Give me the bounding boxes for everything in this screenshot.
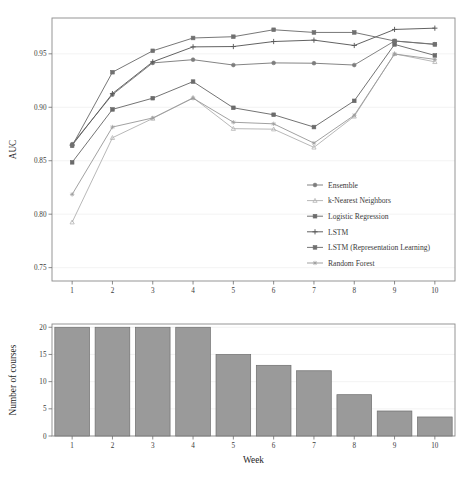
y-tick-label-1: 5	[43, 405, 47, 413]
y-tick-label-3: 15	[39, 351, 47, 359]
legend-item-k-nearest-neighbors[interactable]: k-Nearest Neighbors	[307, 196, 391, 205]
y-tick-label-2: 0.85	[34, 157, 47, 165]
series-line-3	[72, 28, 435, 145]
legend-label-5: Random Forest	[328, 259, 376, 268]
x-tick-label-0: 1	[70, 287, 74, 295]
marker-square-2-7	[352, 99, 356, 103]
bar-week-6[interactable]	[256, 365, 291, 436]
series-lstm-representation-learning	[70, 28, 436, 148]
marker-square-4-0	[70, 144, 74, 148]
y-axis-title: AUC	[8, 140, 18, 160]
legend-item-random-forest[interactable]: Random Forest	[307, 259, 376, 268]
courses-bar-chart-panel: 0510152012345678910WeekNumber of courses	[0, 300, 468, 480]
x-tick-label-4: 5	[232, 287, 236, 295]
y-tick-label-3: 0.90	[34, 104, 47, 112]
y-tick-label-2: 10	[39, 378, 47, 386]
bar-week-9[interactable]	[377, 411, 412, 436]
x-tick-label-3: 4	[191, 442, 195, 450]
y-tick-label-1: 0.80	[34, 211, 47, 219]
series-line-4	[72, 30, 435, 146]
legend: Ensemblek-Nearest NeighborsLogistic Regr…	[307, 181, 431, 268]
x-axis-ticks: 12345678910	[70, 281, 438, 295]
x-tick-label-2: 3	[151, 287, 155, 295]
series-random-forest	[70, 52, 437, 197]
x-axis-ticks: 12345678910	[70, 436, 438, 450]
y-axis-ticks: 0.750.800.850.900.95	[34, 50, 52, 272]
marker-square-4-L	[313, 246, 317, 250]
line-chart-svg: 0.750.800.850.900.9512345678910WeekAUCEn…	[0, 0, 468, 300]
series-lstm	[70, 26, 438, 148]
marker-square-2-9	[433, 54, 437, 58]
bar-week-10[interactable]	[418, 417, 453, 436]
x-tick-label-1: 2	[111, 442, 115, 450]
legend-label-4: LSTM (Representation Learning)	[328, 243, 431, 252]
x-tick-label-0: 1	[70, 442, 74, 450]
x-tick-label-8: 9	[393, 442, 397, 450]
marker-square-4-4	[232, 35, 236, 39]
marker-square-2-1	[111, 108, 115, 112]
y-tick-label-4: 0.95	[34, 50, 47, 58]
legend-item-lstm[interactable]: LSTM	[307, 228, 349, 237]
x-tick-label-3: 4	[191, 287, 195, 295]
marker-square-2-6	[312, 125, 316, 129]
y-tick-label-0: 0.75	[34, 264, 47, 272]
marker-square-4-1	[111, 70, 115, 74]
marker-square-2-5	[272, 113, 276, 117]
marker-circle-0-7	[352, 63, 356, 67]
marker-square-4-6	[312, 31, 316, 35]
bar-week-5[interactable]	[216, 354, 251, 436]
legend-label-2: Logistic Regression	[328, 212, 389, 221]
x-tick-label-2: 3	[151, 442, 155, 450]
x-tick-label-4: 5	[232, 442, 236, 450]
x-tick-label-5: 6	[272, 442, 276, 450]
legend-item-lstm-representation-learning[interactable]: LSTM (Representation Learning)	[307, 243, 431, 252]
bar-week-7[interactable]	[297, 371, 332, 436]
bar-chart-svg: 0510152012345678910WeekNumber of courses	[0, 300, 468, 480]
marker-square-4-3	[191, 36, 195, 40]
x-tick-label-7: 8	[352, 442, 356, 450]
y-tick-label-0: 0	[43, 433, 47, 441]
marker-square-2-2	[151, 96, 155, 100]
legend-item-ensemble[interactable]: Ensemble	[307, 181, 359, 190]
y-axis-title: Number of courses	[8, 344, 18, 415]
marker-circle-0-3	[191, 58, 195, 62]
y-axis-ticks: 05101520	[39, 324, 52, 441]
marker-circle-0-L	[313, 183, 317, 187]
marker-square-4-9	[433, 43, 437, 47]
series-ensemble	[70, 39, 437, 146]
bar-week-3[interactable]	[135, 327, 170, 436]
bar-week-1[interactable]	[55, 327, 90, 436]
gridlines-group	[52, 54, 455, 268]
marker-circle-0-4	[231, 63, 235, 67]
marker-square-2-0	[70, 160, 74, 164]
x-tick-label-1: 2	[111, 287, 115, 295]
series-logistic-regression	[70, 43, 436, 165]
x-tick-label-7: 8	[352, 287, 356, 295]
x-tick-label-8: 9	[393, 287, 397, 295]
x-tick-label-5: 6	[272, 287, 276, 295]
x-tick-label-9: 10	[431, 442, 439, 450]
marker-circle-0-6	[312, 61, 316, 65]
bar-week-4[interactable]	[176, 327, 211, 436]
bar-week-8[interactable]	[337, 395, 372, 436]
legend-label-1: k-Nearest Neighbors	[328, 196, 391, 205]
series-line-2	[72, 44, 435, 162]
auc-line-chart-panel: 0.750.800.850.900.9512345678910WeekAUCEn…	[0, 0, 468, 300]
series-line-5	[72, 54, 435, 194]
marker-square-4-8	[393, 39, 397, 43]
legend-label-0: Ensemble	[328, 181, 359, 190]
x-axis-title: Week	[243, 455, 264, 465]
marker-square-2-3	[191, 80, 195, 84]
figure-root: 0.750.800.850.900.9512345678910WeekAUCEn…	[0, 0, 468, 480]
marker-square-4-7	[352, 31, 356, 35]
marker-square-2-4	[232, 106, 236, 110]
x-tick-label-6: 7	[312, 442, 316, 450]
y-tick-label-4: 20	[39, 324, 47, 332]
marker-square-4-5	[272, 28, 276, 32]
bar-week-2[interactable]	[95, 327, 130, 436]
marker-square-2-L	[313, 214, 317, 218]
legend-label-3: LSTM	[328, 228, 349, 237]
x-tick-label-6: 7	[312, 287, 316, 295]
x-tick-label-9: 10	[431, 287, 439, 295]
legend-item-logistic-regression[interactable]: Logistic Regression	[307, 212, 389, 221]
